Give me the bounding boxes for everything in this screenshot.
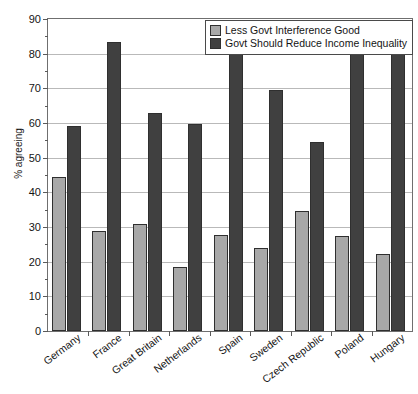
bar <box>229 48 243 331</box>
x-axis-label: Spain <box>216 332 244 357</box>
bar <box>133 224 147 331</box>
legend-item: Less Govt Interference Good <box>210 24 407 37</box>
legend-swatch <box>210 25 221 36</box>
x-axis-label: Germany <box>42 332 83 366</box>
x-axis-label: Hungary <box>368 332 406 364</box>
bar-group <box>331 19 371 331</box>
y-axis-title: % agreeing <box>13 99 24 209</box>
bar <box>350 50 364 331</box>
y-axis-tick-label: 50 <box>29 152 41 163</box>
bar <box>310 142 324 331</box>
x-axis-label: Sweden <box>248 332 285 363</box>
bar-group <box>48 19 88 331</box>
bar-group <box>210 19 250 331</box>
chart-legend: Less Govt Interference GoodGovt Should R… <box>205 20 413 55</box>
bar-chart: % agreeing 0102030405060708090 GermanyFr… <box>0 0 418 394</box>
bar <box>148 113 162 331</box>
bar <box>295 211 309 331</box>
legend-swatch <box>210 38 221 49</box>
bar <box>173 267 187 331</box>
x-axis-label: Poland <box>333 332 365 360</box>
bar-group <box>88 19 128 331</box>
bar <box>52 177 66 331</box>
bar-group <box>291 19 331 331</box>
legend-label: Govt Should Reduce Income Inequality <box>225 38 407 49</box>
y-axis-tick-label: 20 <box>29 256 41 267</box>
bar <box>376 254 390 331</box>
x-axis-labels: GermanyFranceGreat BritainNetherlandsSpa… <box>47 332 411 392</box>
bar <box>92 231 106 331</box>
y-axis-tick-label: 10 <box>29 291 41 302</box>
bar-group <box>169 19 209 331</box>
bar-group <box>372 19 412 331</box>
bar-group <box>129 19 169 331</box>
y-axis-tick-label: 70 <box>29 83 41 94</box>
bar <box>214 235 228 331</box>
x-axis-label: France <box>90 332 122 360</box>
y-axis-tick-label: 90 <box>29 14 41 25</box>
bar <box>335 236 349 331</box>
y-axis-tick-label: 60 <box>29 118 41 129</box>
bar <box>254 248 268 331</box>
bar <box>67 126 81 331</box>
legend-item: Govt Should Reduce Income Inequality <box>210 37 407 50</box>
bar-group <box>250 19 290 331</box>
y-axis-tick-label: 30 <box>29 222 41 233</box>
bar <box>107 42 121 331</box>
bar <box>188 124 202 331</box>
bar <box>269 90 283 331</box>
y-axis-tick-label: 40 <box>29 187 41 198</box>
y-axis-tick-label: 80 <box>29 48 41 59</box>
legend-label: Less Govt Interference Good <box>225 25 360 36</box>
bar <box>391 35 405 331</box>
y-axis-tick-label: 0 <box>35 326 41 337</box>
plot-area: 0102030405060708090 <box>47 18 413 332</box>
